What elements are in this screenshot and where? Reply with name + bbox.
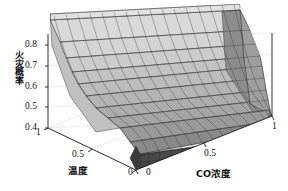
z-tick-label-0: 0.8 [25,39,37,49]
y-tick-label-2: 0 [128,167,133,177]
y-axis-title: 温度 [68,163,88,177]
x-tick-label-0: 0 [146,167,151,177]
y-tick-label-0: 1 [36,127,41,137]
surface-plot-canvas [0,0,288,191]
x-axis-title: CO浓度 [196,166,231,180]
surface-plot-figure: 火灾概率 0.8 0.7 0.6 0.5 0.4 1 0.5 0 温度 0 0.… [0,0,288,191]
z-tick-label-2: 0.6 [25,81,37,91]
x-tick-label-1: 0.5 [204,148,216,158]
z-tick-label-1: 0.7 [25,60,37,70]
x-tick-label-2: 1 [272,121,277,131]
z-tick-label-3: 0.5 [25,101,37,111]
y-tick-label-1: 0.5 [72,149,84,159]
